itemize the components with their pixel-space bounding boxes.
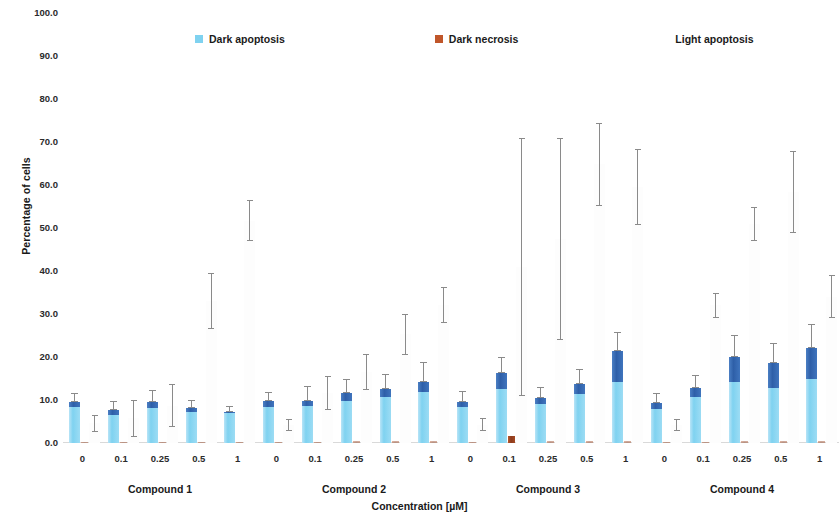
bar-segment-dark-apoptosis[interactable] [418,392,429,443]
bar-segment-dark-apoptosis[interactable] [186,412,197,443]
bar-segment-dark-apoptosis[interactable] [341,401,352,443]
bar-segment-dark-apoptosis[interactable] [224,413,235,443]
stacked-bar-dark[interactable] [496,373,507,443]
bar-light-apoptosis[interactable] [477,425,488,443]
y-axis-title: Percentage of cells [20,136,32,276]
stacked-bar-dark[interactable] [729,357,740,443]
bar-segment-light-necrosis[interactable] [302,401,313,406]
stacked-bar-dark[interactable] [768,363,779,443]
bar-group-label: Compound 4 [645,483,839,495]
stacked-bar-dark[interactable] [535,398,546,443]
error-bar-light-apoptosis [560,138,561,340]
stacked-bar-dark[interactable] [224,412,235,443]
bar-segment-light-necrosis[interactable] [108,410,119,414]
error-bar-light-apoptosis [676,419,677,432]
bar-light-apoptosis[interactable] [749,224,760,443]
error-bar-dark-apoptosis [268,392,269,402]
bar-light-apoptosis[interactable] [438,305,449,443]
error-bar-light-apoptosis [793,151,794,233]
bar-segment-dark-apoptosis[interactable] [729,382,740,443]
stacked-bar-dark[interactable] [341,393,352,443]
error-bar-dark-apoptosis [540,387,541,399]
bar-light-apoptosis[interactable] [594,164,605,443]
bar-dark-necrosis [236,442,243,443]
bar-light-apoptosis[interactable] [632,187,643,443]
stacked-bar-dark[interactable] [806,348,817,443]
bar-light-apoptosis[interactable] [826,297,837,443]
bar-light-apoptosis[interactable] [89,423,100,443]
stacked-bar-dark[interactable] [263,401,274,443]
stacked-bar-dark[interactable] [457,402,468,443]
bar-light-apoptosis[interactable] [167,406,178,443]
error-bar-dark-apoptosis [307,386,308,401]
bar-light-apoptosis[interactable] [244,221,255,443]
bar-segment-light-necrosis[interactable] [574,384,585,394]
bar-segment-light-necrosis[interactable] [263,401,274,407]
error-bar-light-apoptosis [482,418,483,432]
bar-light-apoptosis[interactable] [400,334,411,443]
bar-dark-necrosis [120,442,127,443]
bar-segment-light-necrosis[interactable] [69,402,80,407]
error-bar-dark-apoptosis [773,343,774,363]
bar-segment-light-necrosis[interactable] [690,388,701,397]
stacked-bar-dark[interactable] [418,382,429,443]
error-bar-light-apoptosis [211,273,212,329]
bar-light-apoptosis[interactable] [361,372,372,443]
bar-segment-dark-apoptosis[interactable] [806,379,817,444]
bar-segment-dark-apoptosis[interactable] [263,407,274,443]
error-bar-light-apoptosis [715,293,716,319]
stacked-bar-dark[interactable] [380,389,391,443]
bar-segment-light-necrosis[interactable] [341,393,352,401]
stacked-bar-dark[interactable] [574,384,585,443]
stacked-bar-dark[interactable] [612,351,623,443]
bar-slot [684,13,723,443]
bar-segment-dark-apoptosis[interactable] [69,407,80,443]
bar-segment-dark-apoptosis[interactable] [651,409,662,443]
bar-segment-light-necrosis[interactable] [380,389,391,397]
bar-dark-necrosis [624,441,631,443]
bar-segment-dark-apoptosis[interactable] [496,389,507,443]
bar-light-apoptosis[interactable] [671,425,682,443]
bar-light-apoptosis[interactable] [206,301,217,443]
bar-segment-light-necrosis[interactable] [418,382,429,393]
bar-segment-dark-apoptosis[interactable] [302,406,313,443]
bar-segment-dark-apoptosis[interactable] [574,394,585,443]
bar-dark-necrosis[interactable] [508,436,515,443]
bar-segment-light-necrosis[interactable] [186,408,197,412]
bar-segment-light-necrosis[interactable] [768,363,779,388]
bar-light-apoptosis[interactable] [283,425,294,443]
bar-light-apoptosis[interactable] [788,192,799,443]
bar-chart: Percentage of cells 100.090.080.070.060.… [0,0,839,515]
bar-light-apoptosis[interactable] [516,267,527,443]
stacked-bar-dark[interactable] [147,402,158,443]
bar-light-apoptosis[interactable] [555,239,566,443]
bar-segment-dark-apoptosis[interactable] [147,408,158,443]
bar-segment-light-necrosis[interactable] [729,357,740,381]
bar-segment-dark-apoptosis[interactable] [612,382,623,443]
bar-segment-light-necrosis[interactable] [612,351,623,382]
stacked-bar-dark[interactable] [651,403,662,443]
stacked-bar-dark[interactable] [302,401,313,443]
bar-segment-dark-apoptosis[interactable] [690,397,701,443]
stacked-bar-dark[interactable] [186,408,197,443]
bar-segment-light-necrosis[interactable] [457,402,468,407]
bar-segment-light-necrosis[interactable] [806,348,817,379]
bar-segment-light-necrosis[interactable] [535,398,546,404]
bar-segment-dark-necrosis [353,441,360,443]
stacked-bar-dark[interactable] [108,410,119,443]
bar-light-apoptosis[interactable] [128,418,139,443]
bar-light-apoptosis[interactable] [322,393,333,443]
bar-segment-dark-apoptosis[interactable] [380,397,391,443]
bar-segment-light-necrosis[interactable] [496,373,507,388]
bar-segment-light-necrosis[interactable] [224,412,235,414]
bar-light-apoptosis[interactable] [710,305,721,443]
bar-segment-dark-necrosis [236,442,243,443]
bar-segment-light-necrosis[interactable] [651,403,662,409]
bar-segment-dark-apoptosis[interactable] [457,407,468,443]
bar-segment-dark-apoptosis[interactable] [535,404,546,443]
bar-segment-light-necrosis[interactable] [147,402,158,408]
bar-segment-dark-apoptosis[interactable] [768,388,779,443]
stacked-bar-dark[interactable] [69,402,80,443]
stacked-bar-dark[interactable] [690,388,701,443]
bar-segment-dark-apoptosis[interactable] [108,415,119,443]
